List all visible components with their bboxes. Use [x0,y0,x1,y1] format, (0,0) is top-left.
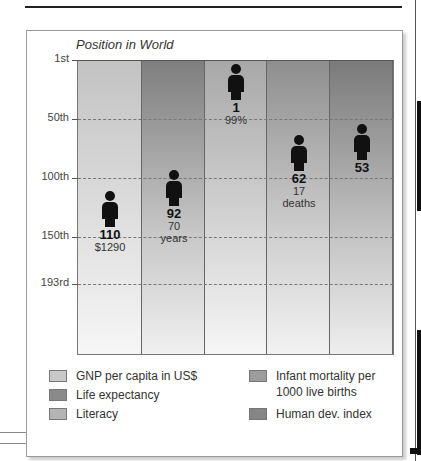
y-tick-193rd: 193rd [33,276,69,288]
rank-value: 1 [206,101,266,114]
legend-swatch [49,370,67,382]
page-rule [0,432,27,433]
tick-mark [72,119,78,120]
y-tick-150th: 150th [33,229,69,241]
rank-value: 92 [144,207,204,220]
legend-swatch [49,389,67,401]
gridline-193rd [78,284,393,285]
value-label: 70 [144,220,204,232]
chart-title: Position in World [76,37,174,52]
tick-mark [72,284,78,285]
value-label-unit: years [144,232,204,244]
legend-swatch [249,408,267,420]
page-edge-block [417,101,421,211]
header-rule [25,6,402,8]
person-icon [352,124,372,160]
y-tick-1st: 1st [33,52,69,64]
gridline-1st [78,60,393,61]
legend-swatch [249,370,267,382]
marker-literacy: 1 99% [206,64,266,126]
marker-hdi: 53 [332,124,392,174]
rank-value: 53 [332,161,392,174]
tick-mark [72,237,78,238]
tick-mark [72,60,78,61]
marker-infant-mortality: 62 17 deaths [269,135,329,209]
person-icon [100,191,120,227]
y-tick-100th: 100th [33,170,69,182]
marker-life-expectancy: 92 70 years [144,170,204,244]
rank-value: 62 [269,172,329,185]
page-edge-block [417,330,421,455]
value-label-unit: deaths [269,197,329,209]
column-hdi [330,60,393,354]
gridline-100th [78,178,393,179]
page-rule [0,443,27,444]
plot-area: 110 $1290 92 70 years 1 99% 62 17 deaths… [77,60,394,355]
marker-gnp: 110 $1290 [80,191,140,253]
person-icon [164,170,184,206]
rank-value: 110 [80,228,140,241]
legend-swatch [49,408,67,420]
value-label: $1290 [80,241,140,253]
y-tick-50th: 50th [33,111,69,123]
person-icon [226,64,246,100]
chart-panel: Position in World 1st 50th 100th 150th 1… [26,30,403,457]
value-label: 17 [269,185,329,197]
person-icon [289,135,309,171]
page-edge-block [410,448,421,454]
value-label: 99% [206,114,266,126]
tick-mark [72,178,78,179]
page-edge [415,0,416,461]
